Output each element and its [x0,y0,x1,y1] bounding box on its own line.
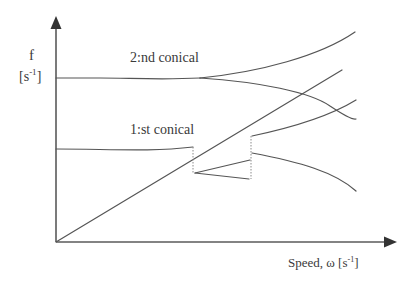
y-axis-arrow-icon [51,16,62,29]
y-axis-symbol: f [29,47,34,63]
1st-conical-backward-whirl [252,153,356,191]
2nd-conical-common [56,78,200,79]
1st-conical-forward-whirl [252,100,356,136]
2nd-conical-forward-whirl [200,32,355,78]
y-axis-unit: [s-1] [19,67,41,84]
1st-conical-common [56,147,193,150]
x-axis-label: Speed, ω [s-1] [288,255,358,270]
excitation-line [56,70,342,242]
x-axis-arrow-icon [384,237,397,248]
campbell-diagram: f [s-1] Speed, ω [s-1] 2:nd conical 1:st… [0,0,414,281]
1st-conical-unstable-upper [195,160,250,173]
x-axis-title: Speed, ω [s-1] [288,255,358,270]
mode-label-1st-conical: 1:st conical [130,122,194,137]
mode-label-2nd-conical: 2:nd conical [130,50,199,65]
mode-2nd-conical: 2:nd conical [56,32,356,119]
axes [51,16,398,248]
2nd-conical-backward-whirl [200,78,356,119]
mode-1st-conical: 1:st conical [56,100,356,191]
y-axis-label: f [s-1] [19,47,41,84]
1st-conical-unstable-lower [195,173,249,179]
